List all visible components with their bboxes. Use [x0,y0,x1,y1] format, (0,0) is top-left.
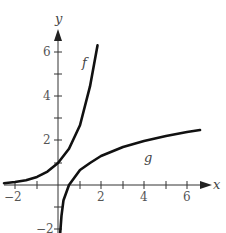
x-tick-label-2: 2 [97,190,105,204]
x-axis-label: x [213,177,221,192]
x-axis-arrow-icon [200,181,212,189]
curve-f-label: f [81,55,89,70]
y-axis-label: y [54,11,63,26]
x-tick-label-4: 4 [140,190,148,204]
curve-g-label: g [144,150,152,165]
y-tick-label-4: 4 [43,89,51,103]
y-axis-arrow-icon [54,29,62,41]
y-tick-label-6: 6 [43,45,51,59]
function-graph: y x f g −2 2 4 6 6 4 2 −2 [0,0,226,233]
y-tick-label-2: 2 [43,133,51,147]
x-tick-label-6: 6 [183,190,191,204]
x-tick-label-neg2: −2 [4,190,22,204]
curve-g [60,130,200,233]
y-tick-label-neg2: −2 [36,222,54,233]
